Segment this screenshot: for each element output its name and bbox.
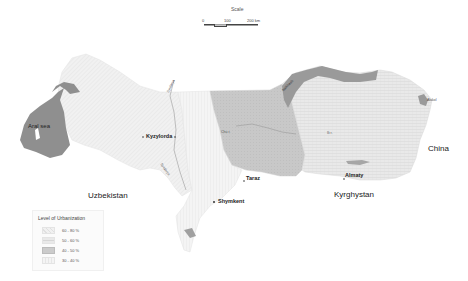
legend-swatch-40-50 [42,247,55,254]
country-label-china: China [428,145,449,153]
water-label-ili: Ili r. [327,132,332,136]
city-marker-kyzylorda [142,136,144,138]
legend-item: 60 - 80 % [42,226,79,234]
scale-tick-200: 200 km [247,19,260,23]
legend-title: Level of Urbanization [38,215,85,221]
city-label-kyzylorda: Kyzylorda [146,134,172,140]
water-label-aral-sea: Aral sea [28,123,50,129]
city-label-taraz: Taraz [246,176,260,182]
legend-label: 60 - 80 % [62,228,79,233]
scale-tick-0: 0 [202,19,204,23]
legend-swatch-30-40 [42,257,55,264]
scale-tick-100: 100 [224,19,231,23]
country-label-kyrghystan: Kyrghystan [334,191,374,199]
scale-title: Scale [231,7,244,12]
legend-swatch-60-80 [42,227,55,234]
city-marker-taraz [243,180,245,182]
region-kyzylorda [58,54,192,196]
country-label-uzbekistan: Uzbekistan [88,192,128,200]
city-label-shymkent: Shymkent [218,199,244,205]
legend-swatch-50-60 [42,237,55,244]
legend: Level of Urbanization 60 - 80 % 50 - 60 … [32,210,104,271]
city-label-almaty: Almaty [345,173,363,179]
urbanization-map: Scale 0 100 200 km Uzbekistan Kyrghystan… [0,0,468,281]
legend-label: 50 - 60 % [62,238,79,243]
legend-item: 50 - 60 % [42,236,79,244]
scale-bar [204,24,258,27]
city-marker-shymkent [213,201,215,203]
legend-label: 30 - 40 % [62,258,79,263]
legend-item: 30 - 40 % [42,256,79,264]
legend-label: 40 - 50 % [62,248,79,253]
water-label-alakol: Alakol [427,99,437,103]
legend-item: 40 - 50 % [42,246,79,254]
water-label-chu: Chu r. [221,131,230,135]
